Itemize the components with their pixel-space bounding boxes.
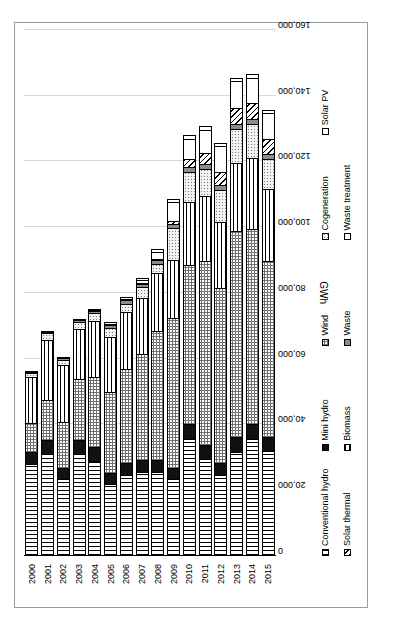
stacked-bar-2008[interactable]	[151, 241, 164, 556]
stacked-bar-2010[interactable]	[183, 127, 196, 556]
stacked-bar-2001[interactable]	[41, 325, 54, 556]
legend-item-waste-treatment[interactable]: Waste treatment	[342, 135, 352, 240]
bar-segment-waste-treatment	[88, 309, 101, 312]
bar-segment-wind	[41, 400, 54, 441]
stacked-bar-2009[interactable]	[167, 191, 180, 556]
legend-item-solar-pv[interactable]: Solar PV	[320, 30, 330, 135]
legend-item-solar-thermal[interactable]: Solar thermal	[342, 451, 352, 556]
bar-segment-cogeneration	[246, 124, 259, 159]
bar-row[interactable]	[134, 30, 150, 556]
bar-row[interactable]	[119, 30, 135, 556]
bar-segment-conventional-hydro	[230, 452, 243, 556]
value-tick-7: 140,000	[278, 86, 311, 96]
bar-segment-mini-hydro	[214, 463, 227, 476]
bar-segment-mini-hydro	[57, 468, 70, 480]
legend-label: Mini hydro	[320, 399, 330, 441]
bar-segment-cogeneration	[262, 159, 275, 190]
bar-segment-wind	[25, 423, 38, 453]
year-tick-2014: 2014	[247, 564, 257, 584]
chart-legend: Conventional hydroMini hydroWindCogenera…	[314, 30, 366, 556]
legend-item-wind[interactable]: Wind	[320, 240, 330, 345]
bar-segment-waste-treatment	[41, 331, 54, 333]
stacked-bar-2012[interactable]	[214, 135, 227, 556]
bar-segment-cogeneration	[120, 304, 133, 314]
legend-label: Conventional hydro	[320, 468, 330, 546]
year-tick-2008: 2008	[153, 564, 163, 584]
bar-row[interactable]	[182, 30, 198, 556]
legend-label: Solar PV	[320, 90, 330, 126]
bar-segment-waste-treatment	[57, 357, 70, 359]
bar-segment-conventional-hydro	[73, 454, 86, 556]
stacked-bar-2005[interactable]	[104, 316, 117, 556]
year-tick-2004: 2004	[90, 564, 100, 584]
bar-segment-biomass	[120, 312, 133, 370]
legend-swatch-icon	[322, 444, 329, 451]
bar-row[interactable]	[245, 30, 261, 556]
stacked-bar-2007[interactable]	[136, 271, 149, 556]
bar-segment-conventional-hydro	[183, 439, 196, 556]
bar-row[interactable]	[229, 30, 245, 556]
bar-segment-biomass	[57, 365, 70, 423]
stacked-bar-2015[interactable]	[262, 102, 275, 556]
bar-segment-waste-treatment	[120, 297, 133, 300]
year-tick-2003: 2003	[74, 564, 84, 584]
legend-item-waste[interactable]: Waste	[342, 240, 352, 345]
bar-segment-mini-hydro	[88, 447, 101, 462]
legend-label: Wind	[320, 315, 330, 336]
bar-row[interactable]	[87, 30, 103, 556]
stacked-bar-2003[interactable]	[73, 313, 86, 556]
legend-item-biomass[interactable]: Biomass	[342, 346, 352, 451]
bar-segment-wind	[214, 288, 227, 464]
bar-segment-mini-hydro	[104, 473, 117, 485]
value-tick-2: 40,000	[278, 415, 306, 425]
bar-segment-cogeneration	[167, 228, 180, 261]
bar-segment-waste-treatment	[230, 78, 243, 83]
stacked-bar-2006[interactable]	[120, 290, 133, 556]
bar-segment-solar-thermal	[230, 108, 243, 124]
bar-row[interactable]	[56, 30, 72, 556]
bar-segment-conventional-hydro	[167, 479, 180, 556]
bar-segment-conventional-hydro	[136, 472, 149, 556]
bar-row[interactable]	[150, 30, 166, 556]
stacked-bar-2002[interactable]	[57, 351, 70, 556]
bar-segment-conventional-hydro	[262, 451, 275, 556]
bar-row[interactable]	[213, 30, 229, 556]
year-tick-2005: 2005	[106, 564, 116, 584]
bar-row[interactable]	[103, 30, 119, 556]
stacked-bar-2014[interactable]	[246, 66, 259, 556]
stacked-bar-2013[interactable]	[230, 69, 243, 556]
bar-segment-biomass	[88, 321, 101, 379]
bar-segment-wind	[167, 318, 180, 469]
bar-segment-solar-pv	[230, 81, 243, 109]
bar-row[interactable]	[24, 30, 40, 556]
legend-item-conventional-hydro[interactable]: Conventional hydro	[320, 451, 330, 556]
value-tick-1: 20,000	[278, 480, 306, 490]
legend-swatch-icon	[322, 549, 329, 556]
bar-segment-biomass	[246, 158, 259, 230]
bar-row[interactable]	[71, 30, 87, 556]
page-canvas: 2000200120022003200420052006200720082009…	[0, 0, 401, 639]
year-tick-2002: 2002	[58, 564, 68, 584]
year-tick-2010: 2010	[184, 564, 194, 584]
bar-row[interactable]	[197, 30, 213, 556]
stacked-bar-2011[interactable]	[199, 118, 212, 556]
bar-row[interactable]	[40, 30, 56, 556]
bar-segment-solar-pv	[262, 113, 275, 139]
bar-segment-conventional-hydro	[199, 459, 212, 556]
legend-item-cogeneration[interactable]: Cogeneration	[320, 135, 330, 240]
bar-segment-wind	[230, 231, 243, 438]
stacked-bar-2000[interactable]	[25, 365, 38, 556]
stacked-bar-2004[interactable]	[88, 303, 101, 556]
bar-segment-wind	[262, 261, 275, 439]
bar-segment-waste-treatment	[199, 126, 212, 131]
chart-area: 2000200120022003200420052006200720082009…	[14, 22, 368, 608]
bar-segment-cogeneration	[41, 333, 54, 341]
year-tick-2006: 2006	[121, 564, 131, 584]
bar-segment-conventional-hydro	[25, 464, 38, 556]
bar-segment-solar-pv	[183, 139, 196, 160]
bar-segment-mini-hydro	[183, 424, 196, 440]
bar-row[interactable]	[260, 30, 276, 556]
bar-segment-cogeneration	[73, 322, 86, 330]
bar-row[interactable]	[166, 30, 182, 556]
legend-item-mini-hydro[interactable]: Mini hydro	[320, 346, 330, 451]
